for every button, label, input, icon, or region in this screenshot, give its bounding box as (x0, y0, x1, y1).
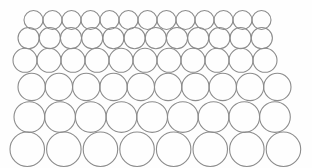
circle-row2-col12 (251, 27, 272, 48)
circle-row1-col8 (157, 11, 176, 30)
circle-row4-col3 (73, 73, 100, 100)
circle-row2-col2 (39, 27, 60, 48)
circle-row3-col7 (157, 48, 181, 72)
circle-row6-col8 (266, 132, 301, 167)
circle-row4-col2 (45, 73, 72, 100)
circle-row1-col6 (119, 11, 138, 30)
circle-row1-col11 (214, 11, 233, 30)
circle-row2-col1 (18, 27, 39, 48)
circle-row4-col1 (18, 73, 45, 100)
circle-row6-col1 (10, 132, 45, 167)
circle-row1-col3 (62, 11, 81, 30)
circle-row4-col9 (236, 73, 263, 100)
circle-row5-col7 (198, 102, 229, 133)
circle-row1-col4 (81, 11, 100, 30)
circle-row3-col10 (229, 48, 253, 72)
circle-row5-col5 (137, 102, 168, 133)
circle-row6-col7 (230, 132, 265, 167)
circle-row6-col2 (47, 132, 82, 167)
circle-row4-col7 (182, 73, 209, 100)
circle-row1-col2 (43, 11, 62, 30)
circle-row5-col8 (229, 102, 260, 133)
circle-row5-col4 (106, 102, 137, 133)
circle-row2-col3 (60, 27, 81, 48)
circle-row1-col13 (252, 11, 271, 30)
circle-row3-col8 (181, 48, 205, 72)
circle-row3-col4 (85, 48, 109, 72)
circle-row2-col8 (166, 27, 187, 48)
circle-pattern-canvas (0, 0, 312, 168)
circle-row4-col5 (127, 73, 154, 100)
circle-row3-col2 (37, 48, 61, 72)
circle-row1-col5 (100, 11, 119, 30)
circle-row5-col3 (75, 102, 106, 133)
circle-row3-col6 (133, 48, 157, 72)
circle-row4-col6 (155, 73, 182, 100)
circle-row5-col1 (14, 102, 45, 133)
circle-row3-col3 (61, 48, 85, 72)
circle-row3-col11 (253, 48, 277, 72)
circle-row4-col10 (264, 73, 291, 100)
circle-row3-col5 (109, 48, 133, 72)
circle-row2-col10 (209, 27, 230, 48)
circle-row4-col8 (209, 73, 236, 100)
circle-row2-col11 (230, 27, 251, 48)
circle-row4-col4 (100, 73, 127, 100)
circle-row6-col4 (120, 132, 155, 167)
circle-row6-col3 (83, 132, 118, 167)
circle-row2-col9 (188, 27, 209, 48)
circle-row5-col9 (260, 102, 291, 133)
circle-pattern (0, 0, 312, 168)
circle-row1-col10 (195, 11, 214, 30)
circle-row2-col6 (124, 27, 145, 48)
circle-row5-col2 (45, 102, 76, 133)
circle-row1-col7 (138, 11, 157, 30)
circle-row6-col5 (156, 132, 191, 167)
circle-row2-col4 (82, 27, 103, 48)
circle-row5-col6 (168, 102, 199, 133)
circle-row1-col1 (24, 11, 43, 30)
circle-row2-col7 (145, 27, 166, 48)
circle-row1-col9 (176, 11, 195, 30)
circle-row1-col12 (233, 11, 252, 30)
circle-row3-col9 (205, 48, 229, 72)
circle-row3-col1 (13, 48, 37, 72)
circle-row2-col5 (103, 27, 124, 48)
circle-row6-col6 (193, 132, 228, 167)
